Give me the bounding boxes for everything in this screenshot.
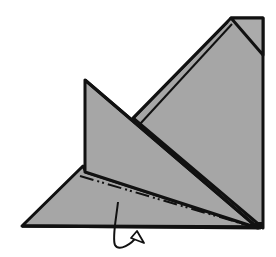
origami-diagram — [0, 0, 276, 257]
fold-diagram-svg — [0, 0, 276, 257]
bottom-edge — [22, 226, 262, 227]
corner-joint — [255, 222, 263, 229]
